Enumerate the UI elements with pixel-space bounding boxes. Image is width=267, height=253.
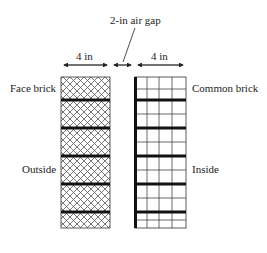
wall-diagram [0,0,267,253]
common-brick-width-label: 4 in [151,51,168,62]
air-gap-label: 2-in air gap [110,15,161,26]
inside-label: Inside [192,164,219,175]
face-brick-label: Face brick [10,83,56,94]
outside-label: Outside [22,164,56,175]
common-brick-label: Common brick [192,83,258,94]
common-brick-wall [135,77,186,228]
face-brick-wall [61,77,110,228]
face-brick-width-label: 4 in [76,51,93,62]
